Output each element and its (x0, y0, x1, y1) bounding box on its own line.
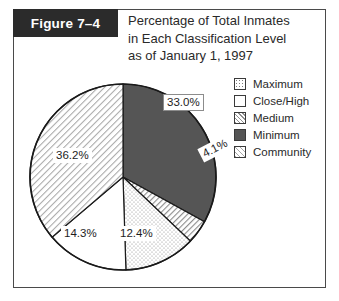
title-line-2: in Each Classification Level (128, 30, 318, 48)
legend-swatch-hatch-icon (234, 112, 246, 124)
legend-label: Community (253, 146, 311, 158)
figure-number-tab: Figure 7–4 (13, 9, 118, 37)
pie-slices (30, 84, 216, 270)
legend-swatch-solid-icon (234, 129, 246, 141)
legend-swatch-blank-icon (234, 95, 246, 107)
chart-legend: MaximumClose/HighMediumMinimumCommunity (234, 76, 311, 159)
legend-swatch-dotted-icon (234, 78, 246, 90)
legend-item-maximum: Maximum (234, 76, 311, 91)
legend-label: Minimum (253, 129, 300, 141)
legend-item-community: Community (234, 144, 311, 159)
legend-item-medium: Medium (234, 110, 311, 125)
legend-swatch-hatch-light-icon (234, 146, 246, 158)
title-line-1: Percentage of Total Inmates (128, 12, 318, 30)
figure-title: Percentage of Total Inmates in Each Clas… (128, 12, 318, 65)
slice-label-closehigh: 14.3% (61, 226, 100, 241)
slice-label-maximum: 12.4% (117, 226, 156, 241)
legend-label: Maximum (253, 78, 303, 90)
slice-label-minimum: 33.0% (163, 94, 204, 111)
slice-label-community: 36.2% (53, 148, 92, 163)
legend-label: Close/High (253, 95, 309, 107)
legend-label: Medium (253, 112, 294, 124)
figure-number-label: Figure 7–4 (31, 16, 101, 31)
legend-item-minimum: Minimum (234, 127, 311, 142)
figure-container: 33.0% 4.1% 12.4% 14.3% 36.2% Figure 7–4 … (0, 0, 339, 301)
legend-item-close-high: Close/High (234, 93, 311, 108)
title-line-3: as of January 1, 1997 (128, 47, 318, 65)
